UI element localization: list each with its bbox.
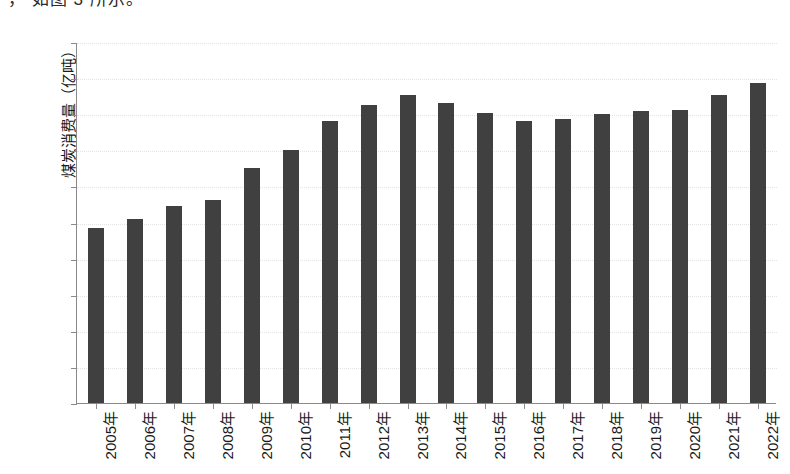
- bar[interactable]: [400, 95, 416, 403]
- bar[interactable]: [711, 95, 727, 403]
- bar-slot: [621, 42, 660, 403]
- bar-slot: [544, 42, 583, 403]
- x-tick-mark: [213, 404, 214, 409]
- x-tick-mark: [291, 404, 292, 409]
- x-tick-label: 2012年: [376, 411, 391, 474]
- x-tick-mark: [135, 404, 136, 409]
- bar[interactable]: [127, 219, 143, 403]
- y-axis-title: 煤炭消费量（亿吨）: [57, 0, 78, 226]
- x-tick-mark: [680, 404, 681, 409]
- x-tick-label: 2019年: [648, 411, 663, 474]
- bar[interactable]: [555, 119, 571, 403]
- bar[interactable]: [633, 111, 649, 403]
- bar-slot: [738, 42, 777, 403]
- bar-slot: [233, 42, 272, 403]
- bar-slot: [194, 42, 233, 403]
- x-tick-label: 2020年: [687, 411, 702, 474]
- x-tick-label: 2009年: [259, 411, 274, 474]
- x-tick-label: 2021年: [726, 411, 741, 474]
- x-tick-label: 2017年: [570, 411, 585, 474]
- x-tick-mark: [602, 404, 603, 409]
- bar-slot: [660, 42, 699, 403]
- x-tick-label: 2013年: [415, 411, 430, 474]
- bar[interactable]: [672, 110, 688, 403]
- bar-slot: [699, 42, 738, 403]
- x-tick-mark: [485, 404, 486, 409]
- x-tick-label: 2015年: [492, 411, 507, 474]
- x-tick-mark: [719, 404, 720, 409]
- x-tick-mark: [96, 404, 97, 409]
- x-tick-mark: [641, 404, 642, 409]
- bar-slot: [155, 42, 194, 403]
- x-tick-label: 2005年: [103, 411, 118, 474]
- bar-slot: [77, 42, 116, 403]
- x-tick-mark: [252, 404, 253, 409]
- x-tick-mark: [369, 404, 370, 409]
- x-tick-label: 2006年: [142, 411, 157, 474]
- bar-slot: [583, 42, 622, 403]
- bar-slot: [427, 42, 466, 403]
- x-tick-mark: [524, 404, 525, 409]
- bar[interactable]: [283, 150, 299, 403]
- bar-slot: [116, 42, 155, 403]
- bars-group: [77, 42, 777, 403]
- bar-slot: [310, 42, 349, 403]
- bar[interactable]: [594, 114, 610, 403]
- bar[interactable]: [166, 206, 182, 403]
- bar[interactable]: [477, 113, 493, 403]
- bar-chart-figure: 煤炭消费量（亿吨） 50454035302520151050 2005年2006…: [0, 0, 790, 474]
- bar[interactable]: [205, 200, 221, 403]
- x-tick-label: 2016年: [531, 411, 546, 474]
- bar[interactable]: [322, 121, 338, 403]
- x-tick-label: 2008年: [220, 411, 235, 474]
- bar[interactable]: [516, 121, 532, 403]
- x-tick-label: 2007年: [181, 411, 196, 474]
- x-tick-label: 2014年: [453, 411, 468, 474]
- x-tick-label: 2011年: [337, 411, 352, 474]
- x-tick-label: 2010年: [298, 411, 313, 474]
- x-tick-label: 2018年: [609, 411, 624, 474]
- bar[interactable]: [88, 228, 104, 403]
- bar[interactable]: [244, 168, 260, 403]
- plot-area: 50454035302520151050 2005年2006年2007年2008…: [76, 43, 776, 404]
- bar-slot: [271, 42, 310, 403]
- bar-slot: [466, 42, 505, 403]
- bar-slot: [349, 42, 388, 403]
- bar[interactable]: [750, 83, 766, 403]
- x-tick-mark: [330, 404, 331, 409]
- bar-slot: [388, 42, 427, 403]
- bar-slot: [505, 42, 544, 403]
- bar[interactable]: [361, 105, 377, 403]
- x-tick-mark: [758, 404, 759, 409]
- x-tick-mark: [408, 404, 409, 409]
- x-tick-label: 2022年: [765, 411, 780, 474]
- bar[interactable]: [438, 103, 454, 403]
- x-tick-mark: [563, 404, 564, 409]
- x-tick-mark: [446, 404, 447, 409]
- y-tick-mark: [71, 404, 77, 405]
- x-tick-mark: [174, 404, 175, 409]
